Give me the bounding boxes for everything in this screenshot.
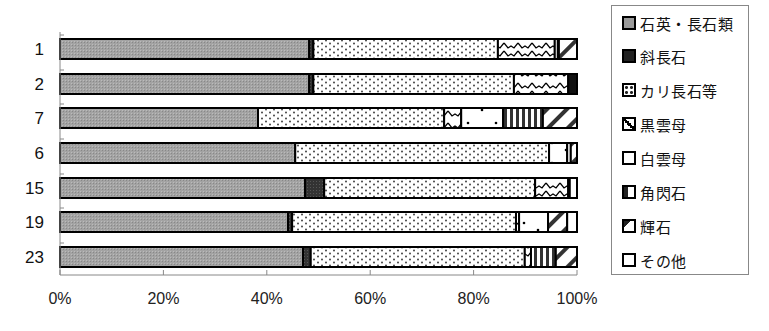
bar-segment: [549, 143, 567, 163]
bar-segment: [556, 247, 577, 267]
y-tick-label: 7: [35, 109, 44, 128]
bar-segment: [548, 212, 567, 232]
bar-segment: [324, 178, 535, 198]
bar-segment: [60, 108, 258, 128]
bar-segment: [60, 247, 303, 267]
x-tick-label: 80%: [458, 290, 490, 307]
bar-segment: [444, 108, 461, 128]
bar-segment: [519, 212, 548, 232]
bar-row: [60, 212, 577, 232]
bar-segment: [570, 178, 577, 198]
bar-segment: [531, 247, 556, 267]
legend-item-biotite: 黒雲母: [622, 113, 687, 135]
legend-swatch-icon: [622, 49, 636, 63]
x-tick-label: 0%: [48, 290, 71, 307]
bar-row: [60, 247, 577, 267]
bar-segment: [60, 39, 309, 59]
bar-segment: [303, 247, 311, 267]
bars: [60, 39, 577, 267]
bar-segment: [258, 108, 444, 128]
legend-swatch-icon: [622, 253, 636, 267]
y-tick-label: 1: [35, 40, 44, 59]
bar-segment: [311, 247, 525, 267]
legend-swatch-icon: [622, 16, 636, 30]
legend-item-amphibole: 角閃石: [622, 181, 687, 203]
legend-swatch-icon: [622, 185, 636, 199]
x-tick-label: 100%: [557, 290, 598, 307]
legend-swatch-icon: [622, 151, 636, 165]
legend-item-muscovite: 白雲母: [622, 147, 687, 169]
bar-segment: [60, 143, 295, 163]
y-tick-label: 15: [25, 179, 44, 198]
bar-segment: [571, 143, 577, 163]
x-tick-label: 20%: [147, 290, 179, 307]
bar-row: [60, 39, 577, 59]
bar-segment: [305, 178, 324, 198]
bar-segment: [60, 178, 305, 198]
bar-segment: [535, 178, 568, 198]
bar-segment: [292, 212, 516, 232]
x-tick-label: 60%: [354, 290, 386, 307]
bar-segment: [60, 74, 309, 94]
bar-segment: [559, 39, 577, 59]
legend-swatch-icon: [622, 219, 636, 233]
bar-segment: [514, 74, 568, 94]
bar-segment: [503, 108, 543, 128]
bar-segment: [568, 74, 577, 94]
x-tick-label: 40%: [251, 290, 283, 307]
bar-segment: [498, 39, 555, 59]
legend-item-quartz-feldspar: 石英・長石類: [622, 12, 733, 34]
bar-row: [60, 74, 577, 94]
y-tick-label: 6: [35, 144, 44, 163]
legend-swatch-icon: [622, 83, 636, 97]
y-tick-label: 23: [25, 248, 44, 267]
bar-row: [60, 178, 577, 198]
legend-item-pyroxene: 輝石: [622, 215, 671, 237]
legend: 石英・長石類 斜長石 カリ長石等 黒雲母 白雲母 角閃石 輝石 その他: [611, 5, 749, 275]
y-tick-label: 19: [25, 213, 44, 232]
legend-item-k-feldspar: カリ長石等: [622, 79, 718, 101]
y-axis-labels: 1276151923: [25, 35, 64, 267]
bar-segment: [567, 212, 577, 232]
bar-segment: [313, 39, 498, 59]
bar-row: [60, 108, 577, 128]
bar-segment: [295, 143, 549, 163]
y-tick-label: 2: [35, 75, 44, 94]
legend-item-other: その他: [622, 249, 687, 271]
bar-segment: [60, 212, 288, 232]
legend-swatch-icon: [622, 117, 636, 131]
bar-row: [60, 143, 577, 163]
bar-segment: [461, 108, 503, 128]
legend-item-plagioclase: 斜長石: [622, 45, 687, 67]
bar-segment: [543, 108, 577, 128]
bar-segment: [313, 74, 514, 94]
